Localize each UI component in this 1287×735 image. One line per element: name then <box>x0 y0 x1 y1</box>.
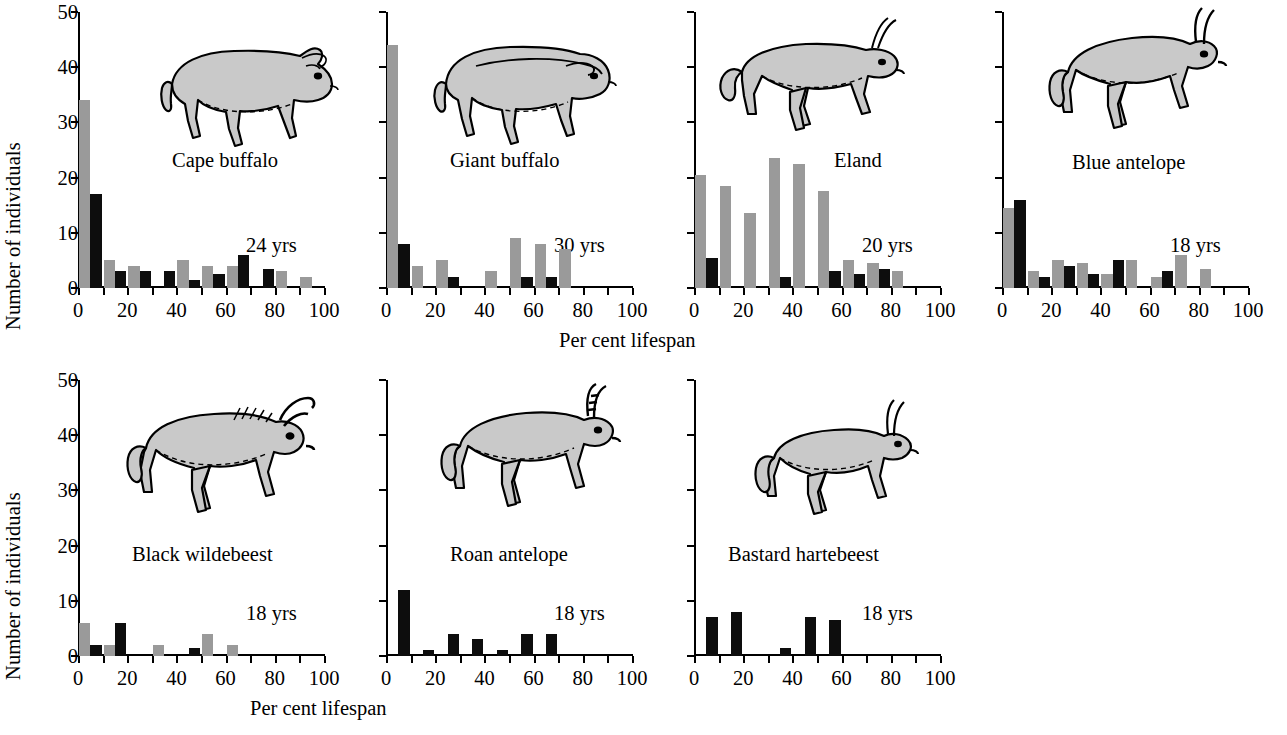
y-axis-tick <box>687 489 694 491</box>
panel-roan-antelope: Roan antelope 18 yrs 020406080100 <box>358 368 650 723</box>
x-axis-tick <box>176 288 178 295</box>
x-axis-tick <box>743 288 745 295</box>
bar-gray <box>128 266 139 288</box>
x-axis-tick <box>719 288 721 295</box>
plot-area-bastard-hartebeest: 020406080100 <box>694 380 940 656</box>
bar-gray <box>227 645 238 656</box>
x-axis-tick <box>1199 288 1201 295</box>
plot-area-giant-buffalo: 020406080100 <box>386 12 632 288</box>
bar-gray <box>79 623 90 656</box>
x-axis-tick <box>460 288 462 295</box>
x-tick-label: 100 <box>925 300 956 321</box>
x-axis-tick <box>534 656 536 663</box>
y-axis-tick <box>379 489 386 491</box>
panel-row-top: Number of individuals 01020304050 <box>0 0 1287 355</box>
y-axis-tick <box>687 434 694 436</box>
x-tick-label: 100 <box>925 668 956 689</box>
y-axis-tick <box>71 379 78 381</box>
bar-gray <box>387 45 398 288</box>
x-axis-tick <box>324 656 326 663</box>
x-axis-tick <box>632 656 634 663</box>
x-axis-tick <box>103 288 105 295</box>
x-axis-tick <box>891 288 893 295</box>
x-tick-label: 60 <box>831 300 852 321</box>
bar-black <box>398 244 409 288</box>
y-axis-tick <box>71 545 78 547</box>
panel-giant-buffalo: Giant buffalo 30 yrs 020406080100 <box>358 0 650 355</box>
x-axis-tick <box>1076 288 1078 295</box>
bar-black <box>238 255 249 288</box>
bar-black <box>90 194 101 288</box>
bar-black <box>805 617 816 656</box>
x-axis-tick <box>250 656 252 663</box>
y-axis-tick <box>687 287 694 289</box>
x-tick-label: 80 <box>265 668 286 689</box>
x-tick-label: 80 <box>573 668 594 689</box>
x-axis-tick <box>768 656 770 663</box>
y-axis-tick <box>687 232 694 234</box>
x-axis-tick <box>460 656 462 663</box>
x-tick-label: 0 <box>381 300 391 321</box>
x-axis-tick <box>509 656 511 663</box>
bar-gray <box>535 244 546 288</box>
bar-black <box>140 271 151 288</box>
x-axis-tick <box>583 656 585 663</box>
bar-black <box>472 639 483 656</box>
x-tick-label: 80 <box>1189 300 1210 321</box>
bar-black <box>780 648 791 656</box>
bar-black <box>423 650 434 656</box>
bar-gray <box>227 266 238 288</box>
panel-eland: Eland 20 yrs 020406080100 <box>666 0 958 355</box>
bar-black <box>1039 277 1050 288</box>
bar-gray <box>892 271 903 288</box>
x-axis-tick <box>915 288 917 295</box>
panel-bastard-hartebeest: Bastard hartebeest 18 yrs 020406080100 <box>666 368 958 723</box>
x-tick-label: 20 <box>1041 300 1062 321</box>
bar-gray <box>1175 255 1186 288</box>
x-tick-label: 0 <box>689 300 699 321</box>
x-axis-tick <box>1051 288 1053 295</box>
x-tick-label: 20 <box>733 300 754 321</box>
x-axis-tick <box>201 288 203 295</box>
bar-gray <box>79 100 90 288</box>
x-tick-label: 100 <box>617 668 648 689</box>
x-tick-label: 0 <box>381 668 391 689</box>
bar-black <box>213 274 224 288</box>
x-axis-tick <box>768 288 770 295</box>
y-axis-tick <box>687 655 694 657</box>
x-axis-tick <box>915 656 917 663</box>
x-axis-tick <box>1100 288 1102 295</box>
x-axis-tick <box>558 656 560 663</box>
panel-blue-antelope: Blue antelope 18 yrs 020406080100 <box>974 0 1266 355</box>
bar-black <box>829 271 840 288</box>
x-tick-label: 20 <box>117 668 138 689</box>
bar-gray <box>202 266 213 288</box>
y-axis-tick <box>71 600 78 602</box>
x-axis-tick <box>866 288 868 295</box>
x-axis-tick <box>386 656 388 663</box>
x-tick-label: 80 <box>881 300 902 321</box>
x-axis-tick <box>940 656 942 663</box>
x-axis-tick <box>694 656 696 663</box>
x-axis-tick <box>275 288 277 295</box>
x-axis-tick <box>607 288 609 295</box>
bar-black <box>115 271 126 288</box>
bar-gray <box>412 266 423 288</box>
x-tick-label: 60 <box>831 668 852 689</box>
y-axis-tick <box>71 434 78 436</box>
bar-black <box>1088 274 1099 288</box>
x-axis-tick <box>1174 288 1176 295</box>
x-axis-tick <box>435 288 437 295</box>
y-axis-tick <box>71 66 78 68</box>
x-axis-tick <box>226 656 228 663</box>
x-axis-title-bottom: Per cent lifespan <box>250 698 387 719</box>
x-tick-label: 100 <box>617 300 648 321</box>
panel-cape-buffalo: Cape buffalo 24 yrs 020406080100 <box>50 0 342 355</box>
bar-gray <box>202 634 213 656</box>
bar-gray <box>818 191 829 288</box>
x-axis-tick <box>201 656 203 663</box>
x-axis-tick <box>250 288 252 295</box>
x-axis-tick <box>940 288 942 295</box>
plot-area-blue-antelope: 020406080100 <box>1002 12 1248 288</box>
x-axis-tick <box>152 656 154 663</box>
